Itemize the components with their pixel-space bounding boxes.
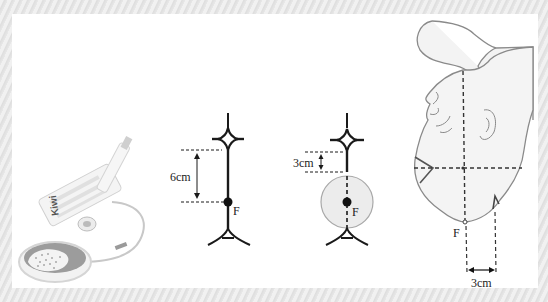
distance-label-3cm-cup: 3cm	[293, 156, 314, 170]
flexion-point-label: F	[233, 204, 240, 218]
flexion-point-label-head: F	[453, 226, 460, 240]
flexion-point-diagram	[181, 113, 250, 245]
distance-label-6cm: 6cm	[170, 170, 191, 184]
figure-canvas: Kiwi 6cm F	[0, 0, 548, 302]
cup-placement-diagram	[305, 113, 373, 245]
flexion-point-label-cup: F	[352, 205, 359, 219]
kiwi-device-illustration: Kiwi	[19, 135, 144, 282]
fetal-head-diagram	[414, 21, 533, 273]
distance-label-3cm-head: 3cm	[471, 276, 492, 290]
